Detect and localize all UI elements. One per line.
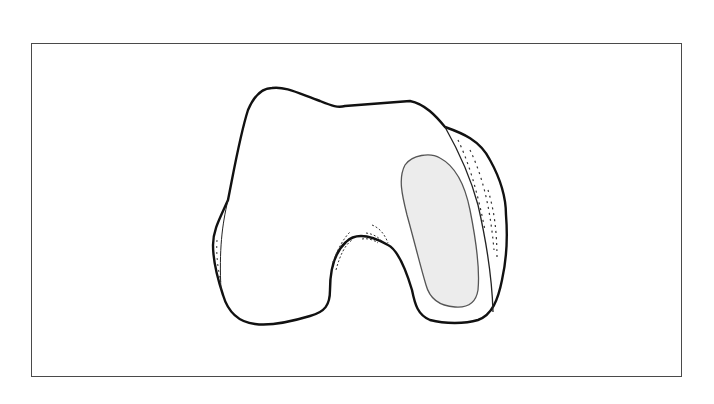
femur-illustration bbox=[0, 0, 714, 404]
